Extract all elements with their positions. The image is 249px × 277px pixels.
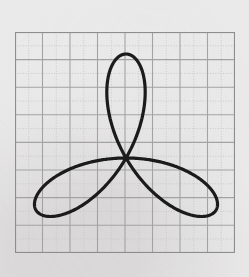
rose-curve-chart	[15, 32, 235, 253]
graph-paper-figure	[0, 0, 249, 277]
rose-curve	[34, 54, 217, 217]
grid-major	[15, 32, 235, 253]
plot-area	[15, 32, 235, 253]
rose-curve-path	[34, 54, 217, 217]
